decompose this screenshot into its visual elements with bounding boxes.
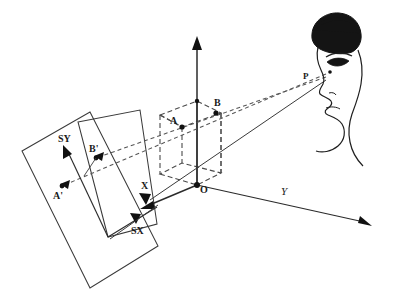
label-point-b-prime: B' — [89, 143, 99, 154]
label-point-a-prime: A' — [53, 190, 63, 201]
label-point-b: B — [214, 97, 221, 108]
diagram-canvas: O A B A' B' P X Y SX SY — [0, 0, 396, 304]
label-axis-x: X — [141, 180, 149, 191]
point-top-dot — [195, 99, 199, 103]
label-point-a: A — [170, 115, 178, 126]
point-a-dot — [179, 124, 184, 129]
point-p-dot — [328, 70, 332, 74]
label-eye-point: P — [303, 71, 309, 81]
label-screen-x: SX — [131, 225, 145, 236]
label-screen-y: SY — [58, 133, 72, 144]
perspective-projection-diagram: O A B A' B' P X Y SX SY — [0, 0, 396, 304]
label-origin: O — [200, 184, 208, 195]
point-b-dot — [213, 110, 218, 115]
